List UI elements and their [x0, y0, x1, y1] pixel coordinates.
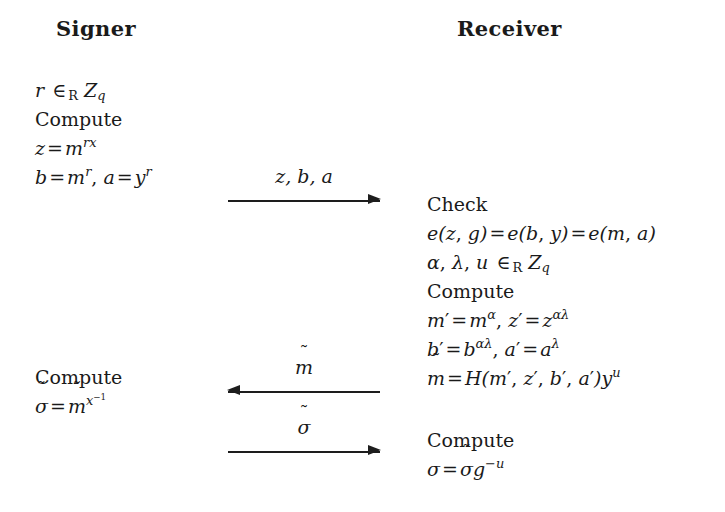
arrow-shaft	[228, 391, 380, 393]
receiver-step-block-2: Compute σ=˜σg−u	[427, 426, 514, 484]
arrow-head-right-icon	[368, 194, 381, 204]
arrow-head-right-icon	[368, 445, 381, 455]
arrow-shaft	[228, 451, 380, 453]
receiver-line-random-alpha-lambda-u: α, λ, u ∈R Zq	[427, 248, 656, 277]
receiver-line-m-prime-z-prime: m′=mα, z′=zαλ	[427, 306, 656, 335]
arrow-shaft	[228, 200, 380, 202]
receiver-line-compute-label-1: Compute	[427, 277, 656, 306]
receiver-line-m-tilde-hash: ˜m=H(m′, z′, b′, a′)yu	[427, 364, 656, 393]
message-arrow-receiver-to-signer-1	[228, 381, 380, 403]
arrow-head-left-icon	[227, 385, 240, 395]
signer-line-compute-label-1: Compute	[35, 105, 152, 134]
signer-line-z: z=mrx	[35, 134, 152, 163]
receiver-line-pairing-check: e(z, g)=e(b, y)=e(m, a)	[427, 219, 656, 248]
signer-step-block-2: Compute ˜σ=˜mx−1	[35, 363, 122, 421]
receiver-line-check-label: Check	[427, 190, 656, 219]
message-label-z-b-a: z, b, a	[228, 165, 380, 187]
message-arrow-signer-to-receiver-1	[228, 190, 380, 212]
party-header-receiver: Receiver	[457, 16, 562, 41]
signer-line-b-a: b=mr, a=yr	[35, 163, 152, 192]
signer-step-block-1: r ∈R Zq Compute z=mrx b=mr, a=yr	[35, 76, 152, 192]
party-header-signer: Signer	[56, 16, 136, 41]
message-arrow-signer-to-receiver-2	[228, 441, 380, 463]
signer-line-random-r: r ∈R Zq	[35, 76, 152, 105]
receiver-step-block-1: Check e(z, g)=e(b, y)=e(m, a) α, λ, u ∈R…	[427, 190, 656, 393]
message-label-sigma-tilde: ˜σ	[228, 416, 380, 438]
message-label-m-tilde: ˜m	[228, 356, 380, 378]
receiver-line-sigma-final: σ=˜σg−u	[427, 455, 514, 484]
protocol-diagram: Signer Receiver r ∈R Zq Compute z=mrx b=…	[0, 0, 725, 512]
signer-line-sigma-tilde: ˜σ=˜mx−1	[35, 392, 122, 421]
receiver-line-b-prime-a-prime: b′=bαλ, a′=aλ	[427, 335, 656, 364]
